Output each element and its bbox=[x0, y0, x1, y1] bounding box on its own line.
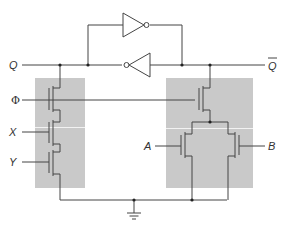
phi-label: Φ bbox=[11, 94, 20, 107]
circuit-diagram: Q Q Φ X Y A B bbox=[0, 0, 286, 237]
right-network-shade bbox=[166, 78, 253, 188]
upper-inverter-input-wire bbox=[88, 25, 123, 65]
b-label: B bbox=[268, 140, 275, 152]
junction-dot bbox=[58, 63, 61, 66]
upper-inverter-output-wire bbox=[150, 25, 182, 65]
junction-dot bbox=[190, 198, 193, 201]
lower-inverter-icon bbox=[129, 53, 150, 77]
y-label: Y bbox=[9, 156, 17, 168]
junction-dot bbox=[86, 63, 89, 66]
junction-dot bbox=[180, 63, 183, 66]
junction-dot bbox=[208, 120, 211, 123]
x-label: X bbox=[8, 126, 17, 138]
q-bar-label: Q bbox=[268, 60, 277, 72]
upper-inverter-icon bbox=[123, 13, 144, 37]
a-label: A bbox=[143, 140, 151, 152]
left-network-shade bbox=[35, 78, 85, 188]
junction-dot bbox=[132, 198, 135, 201]
q-label: Q bbox=[9, 59, 18, 71]
junction-dot bbox=[208, 63, 211, 66]
ground-icon bbox=[127, 213, 141, 219]
